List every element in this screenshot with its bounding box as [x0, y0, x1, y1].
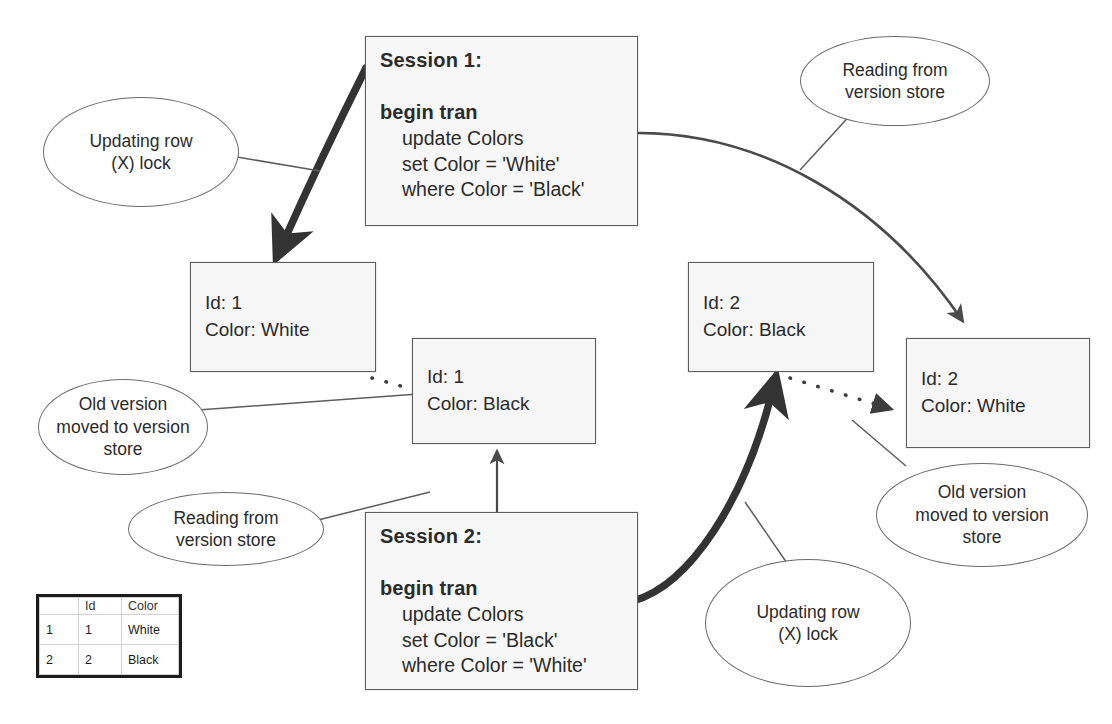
session-1-box: Session 1: begin tran update Colors set …: [365, 36, 638, 226]
row-box-id1-white-color: Color: White: [205, 317, 375, 344]
edge-session1-to-row1white: [283, 68, 366, 243]
result-grid-header-blank: [40, 598, 79, 615]
callout-updating-row-x-lock-bottom: Updating row (X) lock: [705, 559, 911, 687]
result-grid-row: 1 1 White: [40, 615, 179, 645]
row-box-id1-white-id: Id: 1: [205, 290, 375, 317]
diagram-canvas: Session 1: begin tran update Colors set …: [0, 0, 1112, 724]
callout-left-old-line-3: store: [56, 438, 189, 460]
row-box-id2-black-color: Color: Black: [703, 317, 873, 344]
callout-tr-read-line-2: version store: [842, 81, 947, 103]
callout-old-version-moved-right: Old version moved to version store: [876, 463, 1088, 567]
callout-updating-row-x-lock-left: Updating row (X) lock: [43, 97, 239, 207]
callout-left-lock-line-1: Updating row: [89, 130, 192, 152]
result-grid-row: 2 2 Black: [40, 645, 179, 675]
row-box-id1-black-color: Color: Black: [427, 391, 595, 418]
result-grid-row-2-color: Black: [122, 645, 179, 675]
callout-reading-version-store-bottom-left: Reading from version store: [128, 492, 324, 566]
callout-bl-read-line-2: version store: [173, 529, 278, 551]
result-grid-header-color: Color: [122, 598, 179, 615]
session-2-stmt-3: where Color = 'White': [380, 653, 637, 679]
leader-updating-row-left: [237, 157, 320, 171]
callout-bottom-lock-line-1: Updating row: [756, 601, 859, 623]
leader-old-version-left: [198, 393, 432, 410]
callout-bl-read-line-1: Reading from: [173, 507, 278, 529]
edge-row2black-to-row2white: [790, 378, 888, 408]
callout-old-version-moved-left: Old version moved to version store: [38, 379, 208, 475]
row-box-id1-white: Id: 1 Color: White: [190, 262, 376, 372]
session-2-box: Session 2: begin tran update Colors set …: [365, 512, 638, 690]
callout-right-old-line-3: store: [915, 526, 1048, 548]
session-2-keyword: begin tran: [380, 575, 637, 601]
callout-right-old-line-1: Old version: [915, 481, 1048, 503]
result-grid-header-id: Id: [79, 598, 122, 615]
callout-left-old-line-2: moved to version: [56, 416, 189, 438]
callout-reading-version-store-top-right: Reading from version store: [800, 36, 990, 126]
session-1-keyword: begin tran: [380, 99, 637, 125]
row-box-id1-black: Id: 1 Color: Black: [412, 338, 596, 444]
session-2-stmt-2: set Color = 'Black': [380, 628, 637, 654]
leader-updating-row-bottom: [745, 502, 789, 566]
result-grid-row-2-id: 2: [79, 645, 122, 675]
session-2-title: Session 2:: [380, 523, 637, 549]
session-1-title: Session 1:: [380, 47, 637, 73]
callout-left-old-line-1: Old version: [56, 393, 189, 415]
row-box-id2-white: Id: 2 Color: White: [906, 338, 1090, 448]
callout-right-old-line-2: moved to version: [915, 504, 1048, 526]
callout-left-lock-line-2: (X) lock: [89, 152, 192, 174]
row-box-id1-black-id: Id: 1: [427, 364, 595, 391]
result-grid-row-1-id: 1: [79, 615, 122, 645]
result-grid-row-1-num: 1: [40, 615, 79, 645]
row-box-id2-black: Id: 2 Color: Black: [688, 262, 874, 372]
session-1-stmt-2: set Color = 'White': [380, 152, 637, 178]
leader-old-version-right: [852, 420, 906, 466]
callout-bottom-lock-line-2: (X) lock: [756, 623, 859, 645]
result-grid: Id Color 1 1 White 2 2 Black: [36, 594, 182, 678]
callout-tr-read-line-1: Reading from: [842, 59, 947, 81]
row-box-id2-white-color: Color: White: [921, 393, 1089, 420]
result-grid-header-row: Id Color: [40, 598, 179, 615]
session-1-stmt-3: where Color = 'Black': [380, 177, 637, 203]
result-grid-row-2-num: 2: [40, 645, 79, 675]
row-box-id2-white-id: Id: 2: [921, 366, 1089, 393]
result-grid-row-1-color: White: [122, 615, 179, 645]
session-2-stmt-1: update Colors: [380, 602, 637, 628]
session-1-stmt-1: update Colors: [380, 126, 637, 152]
row-box-id2-black-id: Id: 2: [703, 290, 873, 317]
